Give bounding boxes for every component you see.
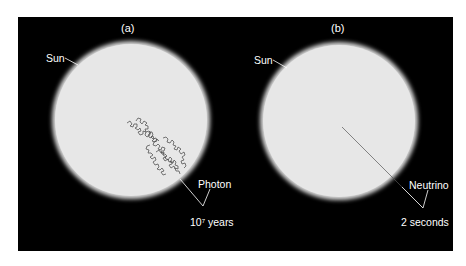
- photon-label: Photon: [198, 178, 231, 190]
- neutrino-time-label: 2 seconds: [401, 216, 449, 228]
- photon-time-label: 107 years: [190, 216, 234, 228]
- photon-time-base: 10: [190, 216, 202, 228]
- sun-escape-diagram: (a) Sun Photon 107 years (b) Sun Neutrin…: [18, 17, 453, 251]
- panel-a-label: (a): [121, 22, 134, 34]
- sun-label-b: Sun: [254, 54, 273, 66]
- sun-disk-a: [52, 41, 210, 199]
- photon-time-exponent: 7: [202, 218, 205, 224]
- panel-b-label: (b): [331, 22, 344, 34]
- sun-label-a: Sun: [46, 52, 65, 64]
- diagram-graphics: [18, 17, 453, 251]
- sun-a-leader-line: [65, 58, 78, 65]
- photon-time-unit: years: [205, 216, 234, 228]
- neutrino-label: Neutrino: [409, 179, 449, 191]
- photon-label-leader: [203, 189, 210, 206]
- neutrino-label-leader: [423, 190, 428, 208]
